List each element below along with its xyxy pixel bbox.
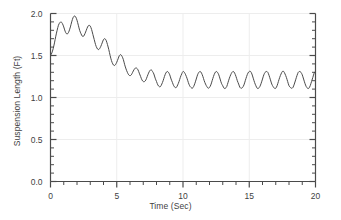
svg-text:2.0: 2.0 bbox=[31, 9, 43, 19]
svg-text:1.5: 1.5 bbox=[31, 51, 43, 61]
x-tick-labels: 05101520 bbox=[48, 191, 320, 201]
x-axis bbox=[51, 182, 316, 188]
suspension-length-chart: 0.00.51.01.52.005101520 Time (Sec) Suspe… bbox=[0, 0, 341, 220]
gridlines bbox=[51, 14, 316, 182]
y-tick-labels: 0.00.51.01.52.0 bbox=[31, 9, 43, 187]
svg-text:10: 10 bbox=[178, 191, 188, 201]
svg-text:0: 0 bbox=[48, 191, 53, 201]
y-axis-title: Suspension Length (Ft) bbox=[12, 26, 22, 176]
svg-text:20: 20 bbox=[311, 191, 321, 201]
x-axis-title: Time (Sec) bbox=[0, 201, 341, 211]
plot-canvas: 0.00.51.01.52.005101520 bbox=[0, 0, 341, 220]
svg-text:1.0: 1.0 bbox=[31, 93, 43, 103]
svg-text:0.0: 0.0 bbox=[31, 177, 43, 187]
y-axis-right bbox=[310, 14, 316, 182]
svg-text:0.5: 0.5 bbox=[31, 135, 43, 145]
svg-text:15: 15 bbox=[245, 191, 255, 201]
svg-text:5: 5 bbox=[114, 191, 119, 201]
